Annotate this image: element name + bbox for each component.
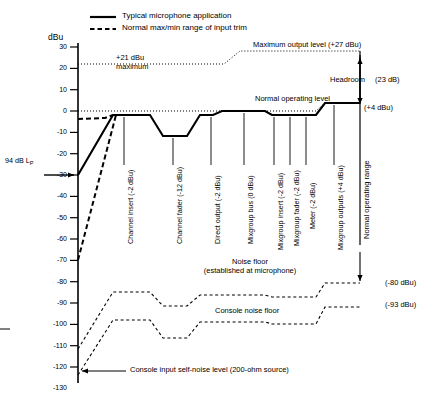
y-axis (70, 43, 78, 383)
stage-label-mixgroup-outputs: Mixgroup outputs (+4 dBu) (337, 165, 344, 250)
headroom-label: Headroom (330, 76, 365, 84)
normal-operating-level-label: Normal operating level (255, 95, 330, 103)
input-maximum-label-line1: +21 dBu (116, 54, 144, 62)
stage-label-mixgroup-fader: Mixgroup fader (-2 dBu) (293, 170, 300, 246)
stage-label-channel-fader: Channel fader (-12 dBu) (176, 167, 183, 244)
legend-item-dashed-label: Normal max/min range of input trim (122, 24, 247, 32)
y-tick-m20: -20 (44, 150, 67, 157)
y-tick-30: 30 (44, 43, 67, 50)
y-tick-m120: -120 (40, 363, 67, 370)
input-maximum-label-line2: maximum (116, 63, 149, 71)
y-tick-m10: -10 (44, 128, 67, 135)
y-tick-m40: -40 (44, 192, 67, 199)
typical-microphone-application-curve (78, 103, 360, 175)
noise-floor-label-line1: Noise floor (185, 258, 315, 266)
input-trim-min-curve (78, 115, 116, 260)
noise-floor-leader (272, 283, 292, 288)
console-self-noise-label: Console input self-noise level (200-ohm … (130, 366, 289, 374)
console-noise-floor-value: (-93 dBu) (385, 301, 416, 309)
y-tick-m70: -70 (44, 256, 67, 263)
headroom-value: (23 dB) (375, 76, 400, 84)
stage-label-channel-insert: Channel insert (-2 dBu) (127, 170, 134, 244)
y-tick-m30: -30 (44, 171, 67, 178)
stage-label-direct-output: Direct output (-2 dBu) (214, 175, 221, 244)
y-tick-m110: -110 (40, 342, 67, 349)
gain-structure-figure: Typical microphone application Normal ma… (0, 0, 444, 399)
y-tick-m130: -130 (40, 384, 67, 391)
plot-canvas (0, 0, 444, 399)
y-tick-0: 0 (44, 107, 67, 114)
y-tick-10: 10 (44, 86, 67, 93)
stage-label-meter: Meter (-2 dBu) (309, 183, 316, 229)
normal-operating-level-value: (+4 dBu) (364, 104, 393, 112)
y-tick-m50: -50 (44, 214, 67, 221)
y-tick-m60: -60 (44, 235, 67, 242)
y-tick-m80: -80 (44, 278, 67, 285)
y-tick-m100: -100 (40, 320, 67, 327)
normal-operating-range-label: Normal operating range (363, 160, 371, 239)
noise-floor-label-line2: (established at microphone) (185, 267, 315, 275)
y-tick-m90: -90 (44, 299, 67, 306)
input-spl-text: 94 dB L (5, 156, 30, 165)
noise-floor-value: (-80 dBu) (385, 279, 416, 287)
normal-operating-reference-line (78, 103, 360, 111)
legend-item-solid-label: Typical microphone application (122, 12, 231, 20)
stage-label-mixgroup-bus: Mixgroup bus (0 dBu) (247, 175, 254, 244)
y-axis-unit-label: dBu (48, 33, 63, 42)
y-tick-20: 20 (44, 64, 67, 71)
maximum-output-level-label: Maximum output level (+27 dBu) (253, 41, 361, 49)
console-noise-floor-label: Console noise floor (215, 307, 279, 315)
input-spl-label: 94 dB LP (5, 157, 33, 167)
stage-label-mixgroup-insert: Mixgroup insert (-2 dBu) (277, 173, 284, 250)
input-spl-subscript: P (30, 160, 34, 166)
input-trim-max-curve (78, 115, 113, 119)
noise-floor-curve (78, 283, 360, 349)
